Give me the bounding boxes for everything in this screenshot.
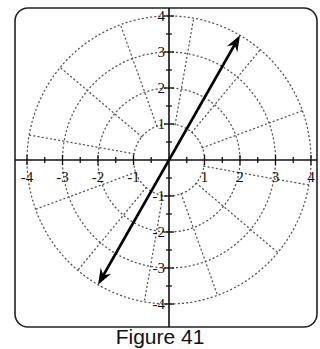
arrowhead-icon [227,35,240,52]
y-tick-label: 4 [158,8,166,24]
figure-caption: Figure 41 [0,325,320,349]
x-tick-label: 1 [201,169,209,185]
grid-spoke [181,194,217,295]
y-tick-label: 3 [158,44,166,60]
grid-spoke [196,183,278,252]
grid-spoke [144,195,162,301]
y-tick-label: -4 [153,296,166,312]
grid-spoke [36,172,136,209]
y-tick-label: -3 [153,260,166,276]
x-tick-label: 2 [236,169,244,185]
x-tick-label: 4 [307,169,315,185]
x-tick-label: -4 [21,169,34,185]
x-tick-label: -2 [92,169,105,185]
x-tick-label: -3 [56,169,69,185]
x-tick-label: 3 [272,169,280,185]
y-tick-label: -1 [153,188,166,204]
grid-spoke [29,135,134,154]
grid-spoke [202,111,302,148]
y-tick-label: 2 [158,80,166,96]
grid-spoke [120,25,156,126]
y-tick-label: 1 [158,116,166,132]
grid-spoke [175,18,193,124]
arrowhead-icon [98,268,111,285]
x-tick-label: -1 [127,169,140,185]
grid-spoke [204,166,309,185]
y-tick-label: -2 [153,224,166,240]
grid-spoke [60,67,142,136]
